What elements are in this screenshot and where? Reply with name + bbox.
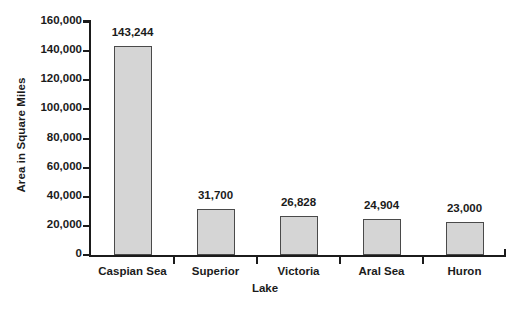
x-axis-title: Lake xyxy=(232,282,298,294)
y-axis-tick-mark xyxy=(83,21,90,23)
bar-value-label: 23,000 xyxy=(447,202,482,214)
y-axis-tick-label: 40,000 xyxy=(10,189,82,201)
x-axis-category-label: Aral Sea xyxy=(340,265,423,277)
plot-area: 143,24431,70026,82824,90423,000 xyxy=(91,0,506,257)
bar-group: 23,000 xyxy=(423,0,506,257)
y-axis-tick-mark xyxy=(83,138,90,140)
y-axis-tick-label: 20,000 xyxy=(10,218,82,230)
y-axis-tick-labels: 160,000140,000120,000100,00080,00060,000… xyxy=(10,0,82,313)
bar[interactable] xyxy=(446,222,484,255)
bar-group: 24,904 xyxy=(340,0,423,257)
x-axis-tick-mark xyxy=(256,257,258,264)
y-axis-tick-label: 140,000 xyxy=(10,43,82,55)
y-axis-tick-label: 120,000 xyxy=(10,72,82,84)
x-axis-category-label: Superior xyxy=(174,265,257,277)
y-axis-tick-label: 60,000 xyxy=(10,160,82,172)
y-axis-tick-mark xyxy=(83,254,90,256)
x-axis-tick-mark xyxy=(173,257,175,264)
bar[interactable] xyxy=(197,209,235,255)
bar-value-label: 143,244 xyxy=(112,26,154,38)
y-axis-tick-label: 0 xyxy=(10,247,82,259)
bar[interactable] xyxy=(280,216,318,255)
bar-value-label: 26,828 xyxy=(281,196,316,208)
y-axis-tick-mark xyxy=(83,196,90,198)
bar-group: 143,244 xyxy=(91,0,174,257)
y-axis-tick-mark xyxy=(83,108,90,110)
bar-value-label: 31,700 xyxy=(198,189,233,201)
y-axis-tick-mark xyxy=(83,79,90,81)
bar-group: 26,828 xyxy=(257,0,340,257)
bar-group: 31,700 xyxy=(174,0,257,257)
bar[interactable] xyxy=(363,219,401,255)
bar[interactable] xyxy=(114,46,152,255)
x-axis-category-label: Caspian Sea xyxy=(91,265,174,277)
x-axis-category-label: Victoria xyxy=(257,265,340,277)
y-axis-tick-label: 100,000 xyxy=(10,101,82,113)
x-axis-tick-mark xyxy=(339,257,341,264)
bar-chart: Area in Square Miles 160,000140,000120,0… xyxy=(0,0,520,313)
bar-value-label: 24,904 xyxy=(364,199,399,211)
x-axis-tick-mark xyxy=(422,257,424,264)
x-axis-category-label: Huron xyxy=(423,265,506,277)
y-axis-tick-mark xyxy=(83,50,90,52)
y-axis-tick-mark xyxy=(83,225,90,227)
y-axis-tick-mark xyxy=(83,167,90,169)
y-axis-tick-label: 80,000 xyxy=(10,131,82,143)
y-axis-tick-label: 160,000 xyxy=(10,14,82,26)
